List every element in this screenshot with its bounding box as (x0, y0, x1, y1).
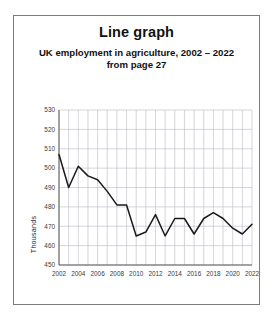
y-tick-label: 500 (44, 164, 55, 171)
x-tick-label: 2018 (206, 270, 221, 277)
screenshot-root: Line graph UK employment in agriculture,… (0, 0, 273, 324)
y-tick-label: 470 (44, 223, 55, 230)
x-tick-label: 2016 (187, 270, 202, 277)
x-tick-label: 2010 (129, 270, 144, 277)
x-tick-label: 2012 (148, 270, 163, 277)
x-tick-label: 2006 (90, 270, 105, 277)
y-tick-label: 460 (44, 242, 55, 249)
y-tick-label: 510 (44, 145, 55, 152)
x-tick-label: 2020 (226, 270, 241, 277)
x-tick-label: 2014 (168, 270, 183, 277)
chart-card: Line graph UK employment in agriculture,… (13, 15, 260, 305)
chart-header: Line graph UK employment in agriculture,… (14, 16, 259, 71)
chart-subtitle: UK employment in agriculture, 2002 – 202… (14, 47, 259, 71)
y-tick-label: 520 (44, 126, 55, 133)
plot-area: Thousands 450460470480490500510520530200… (14, 102, 259, 302)
chart-title: Line graph (14, 25, 259, 41)
y-tick-label: 490 (44, 184, 55, 191)
chart-subtitle-line-2: from page 27 (20, 59, 253, 71)
x-tick-label: 2004 (71, 270, 86, 277)
x-tick-label: 2002 (52, 270, 67, 277)
x-tick-label: 2008 (110, 270, 125, 277)
line-chart: 4504604704804905005105205302002200420062… (14, 102, 259, 302)
y-tick-label: 450 (44, 261, 55, 268)
chart-subtitle-line-1: UK employment in agriculture, 2002 – 202… (39, 47, 234, 58)
y-tick-label: 480 (44, 203, 55, 210)
y-tick-label: 530 (44, 106, 55, 113)
x-tick-label: 2022 (245, 270, 259, 277)
